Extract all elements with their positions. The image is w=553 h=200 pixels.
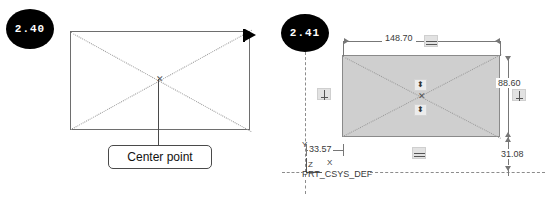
csys-name-label: PRT_CSYS_DEF xyxy=(302,169,372,179)
center-point-marker[interactable]: ✕ xyxy=(155,75,164,84)
vertical-constraint-icon[interactable] xyxy=(512,89,526,101)
vertical-constraint-icon[interactable] xyxy=(317,88,331,100)
dimension-value-offset-vertical[interactable]: 31.08 xyxy=(499,149,526,159)
horizontal-constraint-icon[interactable] xyxy=(412,147,426,159)
arrow-cursor-icon xyxy=(245,29,256,41)
dimension-line-height xyxy=(508,58,509,136)
dimension-arrow-left xyxy=(344,38,349,44)
step-badge-2-41: 2.41 xyxy=(281,14,329,52)
extension-line-top-right xyxy=(500,41,501,56)
symmetry-icon[interactable]: ⬍ xyxy=(414,104,427,116)
center-point-marker-2[interactable]: ✕ xyxy=(417,92,426,101)
symmetry-icon[interactable]: ⬍ xyxy=(414,79,427,91)
dimension-value-offset-horizontal[interactable]: 33.57 xyxy=(308,144,333,154)
callout-center-point: Center point xyxy=(108,145,212,169)
callout-leader-line xyxy=(158,79,159,145)
horizontal-constraint-icon[interactable] xyxy=(424,35,438,47)
csys-centerline-right xyxy=(370,172,545,173)
dimension-arrow-top xyxy=(505,56,511,61)
dimension-line-width xyxy=(344,41,500,42)
extension-line-top-left xyxy=(343,41,344,56)
dimension-value-height[interactable]: 88.60 xyxy=(496,78,523,88)
step-badge-2-40: 2.40 xyxy=(6,9,54,49)
csys-centerline-left xyxy=(282,172,304,173)
offset-arrow-up xyxy=(505,137,511,142)
reference-tick-right xyxy=(508,168,509,176)
callout-center-point-label: Center point xyxy=(127,150,192,164)
figure-canvas: 2.40 ✕ Center point 2.41 ✕ ⬍ ⬍ 148.70 88… xyxy=(0,0,553,200)
extension-line-offset-right xyxy=(343,144,344,156)
csys-axis-label-z: Z xyxy=(308,160,313,169)
dimension-value-width[interactable]: 148.70 xyxy=(382,33,416,43)
csys-axis-label-x: X xyxy=(327,158,332,167)
csys-centerline-bottom xyxy=(305,180,306,194)
csys-axis-label-y: Y xyxy=(302,140,307,149)
